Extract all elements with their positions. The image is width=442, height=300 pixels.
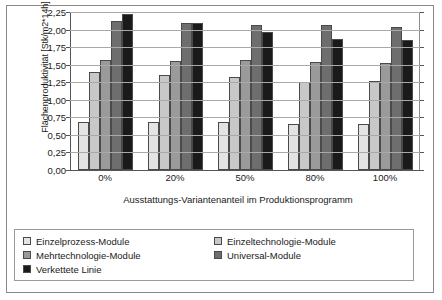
legend-label: Einzeltechnologie-Module	[227, 236, 336, 247]
gridline	[70, 152, 420, 153]
x-axis-tick-labels: 0%20%50%80%100%	[70, 172, 420, 183]
y-tick-label: 2,00	[48, 24, 67, 35]
y-tick-label: 1,25	[48, 77, 67, 88]
y-tick-mark	[66, 135, 70, 136]
x-tick-label: 100%	[350, 172, 420, 183]
legend-swatch-icon	[23, 251, 31, 259]
bar	[391, 27, 402, 170]
bar	[111, 21, 122, 170]
y-tick-mark	[66, 100, 70, 101]
x-tick-label: 0%	[70, 172, 140, 183]
y-tick-mark-right	[420, 47, 424, 48]
bar	[240, 60, 251, 170]
bar-group	[140, 12, 210, 170]
legend-label: Einzelprozess-Module	[36, 236, 129, 247]
y-tick-label: 1,50	[48, 59, 67, 70]
y-tick-mark-right	[420, 30, 424, 31]
legend-swatch-icon	[23, 265, 31, 273]
plot-region: Flächenproduktivität [Stk/m2*14h] 2,252,…	[16, 12, 420, 192]
bar	[262, 32, 273, 170]
y-tick-mark	[66, 30, 70, 31]
bar	[299, 82, 310, 170]
bar	[122, 14, 133, 170]
y-tick-mark	[66, 47, 70, 48]
y-tick-label: 0,00	[48, 165, 67, 176]
y-tick-mark-right	[420, 100, 424, 101]
legend-swatch-icon	[23, 237, 31, 245]
x-axis-label: Ausstattungs-Variantenanteil im Produkti…	[56, 194, 420, 205]
gridline	[70, 65, 420, 66]
legend-item[interactable]: Einzeltechnologie-Module	[214, 236, 405, 247]
bar-group	[350, 12, 420, 170]
bar	[170, 61, 181, 170]
bar-groups	[70, 12, 420, 170]
legend-swatch-icon	[214, 251, 222, 259]
legend-item[interactable]: Universal-Module	[214, 250, 405, 261]
y-tick-label: 0,25	[48, 147, 67, 158]
y-tick-mark-right	[420, 170, 424, 171]
y-tick-mark-right	[420, 152, 424, 153]
bar	[192, 23, 203, 170]
bar-group	[70, 12, 140, 170]
bar-group	[210, 12, 280, 170]
gridline	[70, 82, 420, 83]
bar	[218, 122, 229, 170]
y-tick-mark-right	[420, 65, 424, 66]
y-tick-mark-right	[420, 117, 424, 118]
legend-swatch-icon	[214, 237, 222, 245]
bar	[402, 40, 413, 170]
bar	[310, 62, 321, 170]
y-tick-mark	[66, 12, 70, 13]
gridline	[70, 12, 420, 13]
bar	[332, 39, 343, 170]
y-tick-label: 1,75	[48, 42, 67, 53]
y-tick-mark	[66, 82, 70, 83]
y-tick-mark	[66, 117, 70, 118]
legend-item[interactable]: Einzelprozess-Module	[23, 236, 214, 247]
y-tick-mark	[66, 65, 70, 66]
bar	[181, 23, 192, 170]
y-tick-mark	[66, 152, 70, 153]
gridline	[70, 135, 420, 136]
gridline	[70, 30, 420, 31]
bar	[288, 124, 299, 170]
bar	[369, 81, 380, 170]
bar	[229, 77, 240, 170]
y-tick-mark-right	[420, 12, 424, 13]
x-tick-label: 20%	[140, 172, 210, 183]
chart-figure: Flächenproduktivität [Stk/m2*14h] 2,252,…	[0, 0, 442, 300]
y-tick-label: 2,25	[48, 7, 67, 18]
legend: Einzelprozess-ModuleEinzeltechnologie-Mo…	[14, 229, 414, 281]
y-axis-tick-labels: 2,252,001,751,501,251,000,750,500,250,00	[32, 12, 66, 170]
y-tick-mark	[66, 170, 70, 171]
y-tick-mark-right	[420, 82, 424, 83]
y-tick-label: 0,75	[48, 112, 67, 123]
bar	[89, 72, 100, 170]
bar-group	[280, 12, 350, 170]
y-tick-label: 1,00	[48, 94, 67, 105]
y-tick-label: 0,50	[48, 129, 67, 140]
bar	[78, 122, 89, 170]
x-tick-label: 80%	[280, 172, 350, 183]
bar	[100, 60, 111, 170]
gridline	[70, 47, 420, 48]
bar	[358, 124, 369, 170]
legend-label: Mehrtechnologie-Module	[36, 250, 141, 261]
x-tick-label: 50%	[210, 172, 280, 183]
gridline	[70, 100, 420, 101]
legend-label: Verkettete Linie	[36, 264, 102, 275]
bar	[159, 75, 170, 171]
bar	[148, 122, 159, 170]
legend-item[interactable]: Verkettete Linie	[23, 264, 214, 275]
y-tick-mark-right	[420, 135, 424, 136]
plot-axes	[70, 12, 420, 171]
legend-item[interactable]: Mehrtechnologie-Module	[23, 250, 214, 261]
gridline	[70, 117, 420, 118]
legend-label: Universal-Module	[227, 250, 301, 261]
